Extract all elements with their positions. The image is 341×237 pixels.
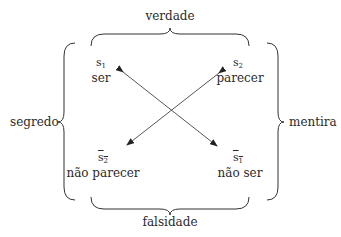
node-s2-label: parecer — [216, 71, 263, 85]
node-s2-symbol: s2 — [233, 57, 243, 72]
right-brace — [267, 43, 284, 200]
brace-label-bottom: falsidade — [142, 215, 197, 229]
node-s1-symbol: s1 — [96, 57, 106, 72]
arrow-s2-not-s2 — [127, 73, 219, 145]
node-not-s2-symbol: s2 — [98, 152, 108, 167]
top-brace — [91, 28, 249, 46]
node-s1-label: ser — [92, 71, 111, 85]
brace-label-left: segredo — [10, 115, 59, 129]
node-not-s1-symbol: s1 — [233, 152, 243, 167]
brace-label-top: verdade — [145, 9, 194, 23]
brace-label-right: mentira — [289, 115, 337, 129]
bottom-brace — [91, 197, 249, 215]
node-not-s2-label: não parecer — [66, 166, 139, 180]
semiotic-square-diagram: verdade falsidade segredo mentira s1 ser… — [0, 0, 341, 237]
arrow-s1-not-s1 — [123, 72, 217, 146]
node-not-s1-label: não ser — [218, 166, 263, 180]
